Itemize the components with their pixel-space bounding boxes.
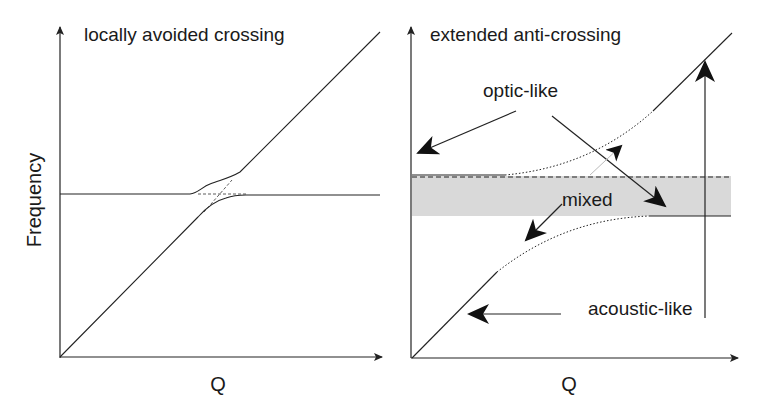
- left-flat-branch: [60, 32, 380, 194]
- right-title: extended anti-crossing: [430, 24, 621, 45]
- optic-like-label: optic-like: [483, 80, 558, 101]
- left-xlabel: Q: [210, 373, 226, 395]
- right-xlabel: Q: [561, 373, 577, 395]
- left-title: locally avoided crossing: [84, 24, 285, 45]
- right-panel: extended anti-crossing optic-like mixed …: [411, 24, 738, 395]
- acoustic-dotted-curve: [497, 216, 650, 272]
- diagram-canvas: locally avoided crossing Frequency Q ext…: [0, 0, 761, 410]
- optic-arrow-left: [418, 111, 516, 153]
- optic-linear-solid: [653, 33, 732, 111]
- left-panel: locally avoided crossing Frequency Q: [23, 24, 382, 395]
- optic-dotted-curve: [505, 111, 653, 175]
- mixed-label: mixed: [562, 189, 613, 210]
- left-ylabel: Frequency: [23, 153, 45, 248]
- acoustic-linear-solid: [412, 272, 497, 358]
- acoustic-like-label: acoustic-like: [588, 298, 693, 319]
- left-lower-branch: [60, 195, 380, 357]
